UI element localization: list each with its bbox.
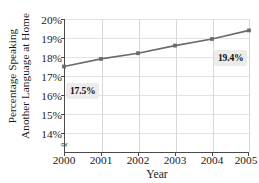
y-axis-tick — [61, 38, 65, 39]
y-tick-label: 14% — [41, 129, 62, 140]
gridline-horizontal — [65, 114, 249, 115]
y-axis-tick — [61, 114, 65, 115]
x-tick-label: 2004 — [201, 155, 224, 166]
data-label-2005: 19.4% — [214, 50, 247, 66]
gridline-horizontal — [65, 38, 249, 39]
gridline-horizontal — [65, 19, 249, 20]
x-tick-label: 2005 — [235, 155, 258, 166]
y-axis-tick — [61, 95, 65, 96]
gridline-vertical — [102, 19, 103, 152]
data-label-2000: 17.5% — [66, 83, 99, 99]
x-axis-line — [64, 152, 249, 153]
axis-break-icon: ≃ — [60, 140, 69, 149]
gridline-vertical — [176, 19, 177, 152]
y-axis-title-line1: Percentage Speaking — [6, 13, 19, 139]
y-axis-tick — [61, 133, 65, 134]
y-axis-tick — [61, 76, 65, 77]
y-tick-label: 19% — [41, 34, 62, 45]
y-axis-title: Percentage Speaking Another Language at … — [0, 0, 38, 152]
gridline-horizontal — [65, 133, 249, 134]
gridline-horizontal — [65, 76, 249, 77]
chart-figure: Percentage Speaking Another Language at … — [0, 0, 259, 183]
x-tick-label: 2001 — [90, 155, 113, 166]
y-tick-label: 16% — [41, 91, 62, 102]
x-tick-label: 2003 — [164, 155, 187, 166]
y-tick-label: 15% — [41, 110, 62, 121]
x-tick-label: 2000 — [53, 155, 76, 166]
gridline-vertical — [139, 19, 140, 152]
y-axis-tick — [61, 19, 65, 20]
x-tick-label: 2002 — [127, 155, 150, 166]
y-tick-label: 17% — [41, 72, 62, 83]
y-tick-label: 18% — [41, 53, 62, 64]
y-axis-title-line2: Another Language at Home — [19, 13, 32, 139]
y-axis-tick — [61, 57, 65, 58]
gridline-vertical — [213, 19, 214, 152]
x-axis-title: Year — [146, 169, 167, 181]
gridline-vertical — [249, 19, 250, 152]
y-tick-label: 20% — [41, 15, 62, 26]
